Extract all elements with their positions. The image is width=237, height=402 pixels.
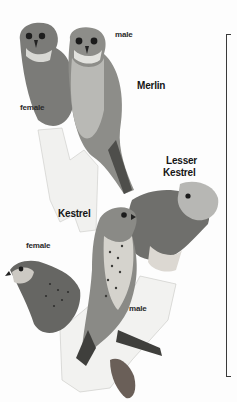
kestrel-female-label: female bbox=[26, 242, 50, 250]
merlin-male-label: male bbox=[115, 31, 132, 39]
merlin-female-label: female bbox=[20, 104, 44, 112]
lesser-kestrel-label-line2: Kestrel bbox=[163, 168, 196, 179]
lesser-kestrel-label-line1: Lesser bbox=[166, 156, 197, 167]
kestrel-species-label: Kestrel bbox=[58, 209, 91, 220]
bird-illustration bbox=[0, 0, 237, 402]
merlin-species-label: Merlin bbox=[137, 81, 165, 92]
kestrel-male-label: male bbox=[129, 305, 146, 313]
lesser-kestrel bbox=[128, 182, 219, 272]
illustration-plate: male Merlin female Lesser Kestrel Kestre… bbox=[0, 0, 237, 402]
grouping-bracket bbox=[226, 34, 231, 377]
kestrel-tail bbox=[110, 359, 135, 399]
